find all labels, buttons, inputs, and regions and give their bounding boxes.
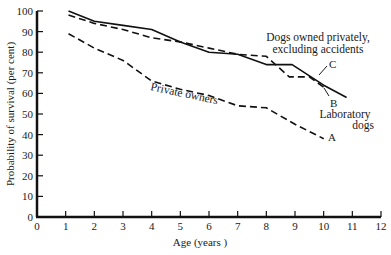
- x-tick-label: 6: [206, 220, 212, 232]
- x-tick-label: 10: [318, 220, 330, 232]
- y-tick-label: 0: [28, 211, 34, 223]
- x-tick-label: 5: [178, 220, 184, 232]
- x-tick-label: 2: [92, 220, 98, 232]
- y-tick-label: 70: [22, 67, 34, 79]
- c-pointer: [319, 66, 327, 75]
- y-tick-label: 50: [22, 108, 34, 120]
- y-tick-label: 30: [22, 149, 34, 161]
- y-axis-label: Probability of survival (per cent): [4, 42, 17, 187]
- b-pointer: [324, 88, 329, 96]
- x-tick-label: 3: [120, 220, 126, 232]
- survival-chart: 01020304050607080901000123456789101112 P…: [0, 0, 391, 255]
- x-tick-label: 4: [149, 220, 155, 232]
- c-marker: C: [329, 58, 336, 70]
- y-tick-label: 10: [22, 190, 34, 202]
- x-tick-label: 1: [63, 220, 69, 232]
- x-tick-label: 8: [264, 220, 270, 232]
- private-owners-label: Private owners: [150, 80, 220, 106]
- x-tick-label: 7: [235, 220, 241, 232]
- y-tick-label: 80: [22, 46, 34, 58]
- c-description-line2: excluding accidents: [272, 43, 364, 56]
- y-tick-label: 100: [17, 5, 34, 17]
- y-tick-label: 60: [22, 87, 34, 99]
- x-tick-label: 0: [34, 220, 40, 232]
- y-tick-label: 90: [22, 26, 34, 38]
- x-tick-label: 12: [376, 220, 387, 232]
- b-description-line2: dogs: [352, 119, 374, 132]
- a-marker: A: [328, 131, 336, 143]
- x-tick-label: 11: [347, 220, 358, 232]
- y-tick-label: 40: [22, 129, 34, 141]
- x-axis-label: Age (years ): [173, 236, 228, 249]
- y-tick-label: 20: [22, 170, 34, 182]
- x-tick-label: 9: [292, 220, 298, 232]
